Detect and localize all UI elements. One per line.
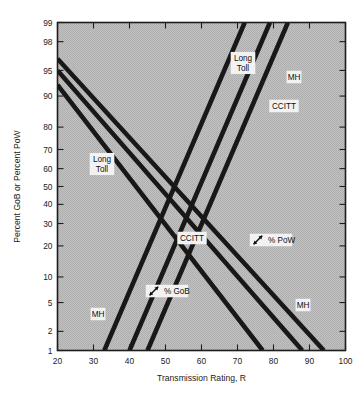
y-tick-label: 60 bbox=[43, 164, 53, 174]
annotation-text: % PoW bbox=[268, 236, 296, 245]
annotation-long-toll-left: LongToll bbox=[90, 153, 115, 175]
annotation-gob-callout: % GoB bbox=[146, 285, 191, 298]
annotation-ccitt-upper: CCITT bbox=[269, 100, 298, 113]
annotation-text: Long bbox=[93, 155, 112, 164]
y-tick-label: 50 bbox=[43, 182, 53, 192]
y-tick-label: 30 bbox=[43, 219, 53, 229]
transmission-rating-chart: 1251020304050607080909598992030405060708… bbox=[0, 0, 364, 398]
annotation-long-toll-upper: LongToll bbox=[231, 52, 256, 74]
y-tick-label: 98 bbox=[43, 37, 53, 47]
annotation-text: MH bbox=[288, 73, 301, 82]
y-tick-label: 10 bbox=[43, 272, 53, 282]
chart-figure: 1251020304050607080909598992030405060708… bbox=[0, 0, 364, 398]
annotation-pow-callout: % PoW bbox=[250, 234, 296, 247]
annotation-text: Long bbox=[234, 54, 253, 63]
y-tick-label: 40 bbox=[43, 199, 53, 209]
y-tick-label: 2 bbox=[48, 326, 53, 336]
annotation-text: CCITT bbox=[180, 234, 204, 243]
y-tick-label: 99 bbox=[43, 18, 53, 28]
annotation-mh-lower-left: MH bbox=[91, 308, 106, 321]
y-tick-label: 95 bbox=[43, 66, 53, 76]
x-tick-label: 30 bbox=[89, 356, 99, 366]
x-tick-label: 100 bbox=[339, 356, 353, 366]
annotation-ccitt-middle: CCITT bbox=[177, 232, 206, 245]
y-tick-label: 20 bbox=[43, 241, 53, 251]
x-tick-label: 80 bbox=[269, 356, 279, 366]
x-tick-label: 60 bbox=[197, 356, 207, 366]
y-tick-label: 90 bbox=[43, 91, 53, 101]
y-tick-label: 70 bbox=[43, 145, 53, 155]
annotation-text: Toll bbox=[237, 64, 249, 73]
x-tick-label: 90 bbox=[305, 356, 315, 366]
annotation-mh-upper: MH bbox=[287, 71, 302, 84]
y-tick-label: 80 bbox=[43, 122, 53, 132]
annotation-text: CCITT bbox=[272, 102, 296, 111]
annotation-text: MH bbox=[92, 310, 105, 319]
x-tick-label: 70 bbox=[233, 356, 243, 366]
y-tick-label: 5 bbox=[48, 298, 53, 308]
y-tick-label: 1 bbox=[48, 346, 53, 356]
annotation-text: Toll bbox=[96, 165, 108, 174]
x-tick-label: 40 bbox=[125, 356, 135, 366]
x-axis-title: Transmission Rating, R bbox=[157, 373, 246, 383]
annotation-mh-lower-right: MH bbox=[296, 299, 311, 312]
annotation-text: % GoB bbox=[164, 287, 190, 296]
x-tick-label: 20 bbox=[53, 356, 63, 366]
annotation-text: MH bbox=[297, 301, 310, 310]
x-tick-label: 50 bbox=[161, 356, 171, 366]
y-axis-title: Percent GoB or Percent PoW bbox=[12, 129, 22, 242]
